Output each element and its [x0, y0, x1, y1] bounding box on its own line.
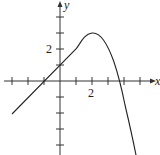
y-axis-label: y — [63, 0, 70, 12]
y-arrow-icon — [58, 1, 63, 7]
function-curve — [12, 33, 136, 155]
y-axis — [58, 1, 63, 155]
y-tick-label-2: 2 — [46, 42, 52, 56]
x-axis-label: x — [154, 74, 160, 88]
x-tick-label-2: 2 — [88, 86, 94, 100]
graph: y x 2 2 — [0, 0, 160, 155]
x-axis — [4, 79, 156, 84]
